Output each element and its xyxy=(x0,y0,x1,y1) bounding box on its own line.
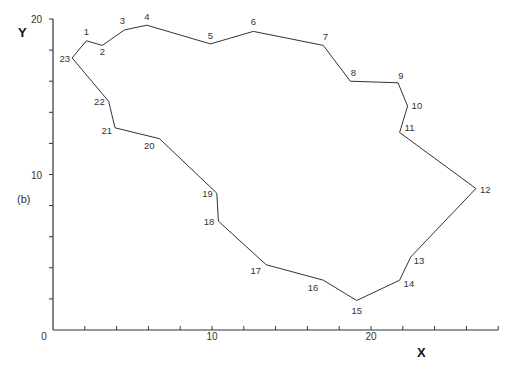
vertex-label-23: 23 xyxy=(60,53,71,64)
vertex-label-5: 5 xyxy=(208,30,213,41)
vertex-label-3: 3 xyxy=(120,15,125,26)
axes xyxy=(49,19,498,330)
vertex-label-14: 14 xyxy=(404,278,415,289)
vertex-label-6: 6 xyxy=(251,16,256,27)
x-tick-label: 10 xyxy=(206,331,218,342)
vertex-label-17: 17 xyxy=(251,265,262,276)
y-axis-title: Y xyxy=(18,25,27,40)
vertex-label-21: 21 xyxy=(101,125,112,136)
x-tick-label: 0 xyxy=(41,331,47,342)
panel-label: (b) xyxy=(17,193,30,205)
vertex-label-16: 16 xyxy=(308,282,319,293)
tick-labels: 010201020 xyxy=(31,14,377,342)
vertex-label-13: 13 xyxy=(414,255,425,266)
vertex-label-18: 18 xyxy=(204,216,215,227)
vertex-label-11: 11 xyxy=(405,122,415,133)
vertex-label-20: 20 xyxy=(144,140,155,151)
vertex-label-2: 2 xyxy=(100,46,105,57)
x-axis-title: X xyxy=(417,345,426,360)
vertex-label-22: 22 xyxy=(94,96,105,107)
vertex-label-9: 9 xyxy=(398,70,403,81)
y-tick-label: 10 xyxy=(31,170,43,181)
vertex-label-10: 10 xyxy=(412,100,423,111)
vertex-label-8: 8 xyxy=(351,67,356,78)
y-tick-label: 20 xyxy=(31,14,43,25)
polygon-diagram: 1234567891011121314151617181920212223 01… xyxy=(0,0,513,374)
vertex-label-7: 7 xyxy=(323,31,328,42)
vertex-label-1: 1 xyxy=(84,26,89,37)
x-tick-label: 20 xyxy=(365,331,377,342)
vertex-label-15: 15 xyxy=(351,305,362,316)
vertex-label-4: 4 xyxy=(144,11,149,22)
vertex-labels: 1234567891011121314151617181920212223 xyxy=(60,11,491,315)
vertex-label-19: 19 xyxy=(202,188,213,199)
vertex-label-12: 12 xyxy=(480,184,491,195)
